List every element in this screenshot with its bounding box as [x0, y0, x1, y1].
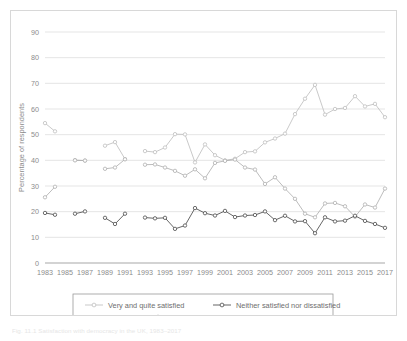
data-point: [333, 220, 336, 223]
y-tick-label: 30: [31, 182, 39, 191]
data-point: [193, 161, 196, 164]
data-point: [193, 206, 196, 209]
y-tick-label: 50: [31, 130, 39, 139]
data-point: [363, 203, 366, 206]
x-tick-label: 1999: [197, 268, 213, 277]
data-point: [363, 105, 366, 108]
data-point: [243, 166, 246, 169]
data-point: [253, 213, 256, 216]
data-point: [383, 187, 386, 190]
data-point: [173, 227, 176, 230]
data-point: [113, 166, 116, 169]
data-point: [183, 174, 186, 177]
data-point: [83, 210, 86, 213]
data-point: [163, 166, 166, 169]
data-point: [323, 113, 326, 116]
x-tick-label: 2003: [237, 268, 253, 277]
data-point: [153, 163, 156, 166]
satisfaction-line-chart: 0102030405060708090Percentage of respond…: [11, 11, 396, 315]
y-tick-label: 10: [31, 233, 39, 242]
data-point: [203, 143, 206, 146]
data-point: [313, 216, 316, 219]
data-point: [323, 216, 326, 219]
series-line: [145, 160, 385, 218]
data-point: [263, 210, 266, 213]
data-point: [193, 168, 196, 171]
data-point: [203, 177, 206, 180]
data-point: [223, 209, 226, 212]
x-tick-label: 1991: [117, 268, 133, 277]
data-point: [313, 232, 316, 235]
data-point: [43, 211, 46, 214]
data-point: [103, 216, 106, 219]
data-point: [53, 185, 56, 188]
legend-swatch-marker: [92, 303, 96, 307]
data-point: [373, 206, 376, 209]
data-point: [293, 112, 296, 115]
data-point: [53, 130, 56, 133]
data-point: [283, 214, 286, 217]
data-point: [293, 197, 296, 200]
data-point: [253, 150, 256, 153]
x-tick-labels: 1983198519871989199119931995199719992001…: [37, 268, 393, 277]
data-point: [283, 132, 286, 135]
x-tick-label: 1983: [37, 268, 53, 277]
data-point: [303, 212, 306, 215]
data-point: [263, 182, 266, 185]
y-tick-label: 90: [31, 28, 39, 37]
data-point: [343, 219, 346, 222]
data-point: [383, 226, 386, 229]
data-point: [43, 121, 46, 124]
data-point: [263, 141, 266, 144]
legend-label: Neither satisfied nor dissatisfied: [236, 301, 340, 310]
series-0: [43, 83, 386, 164]
y-tick-label: 80: [31, 53, 39, 62]
data-point: [313, 83, 316, 86]
x-tick-label: 2017: [377, 268, 393, 277]
y-tick-label: 20: [31, 207, 39, 216]
y-tick-label: 60: [31, 105, 39, 114]
data-point: [183, 224, 186, 227]
data-point: [83, 159, 86, 162]
data-point: [113, 222, 116, 225]
data-point: [363, 219, 366, 222]
data-point: [73, 212, 76, 215]
y-tick-label: 40: [31, 156, 39, 165]
data-point: [303, 97, 306, 100]
data-point: [383, 116, 386, 119]
x-tick-label: 1993: [137, 268, 153, 277]
data-point: [243, 150, 246, 153]
data-point: [143, 216, 146, 219]
legend: Very and quite satisfiedNeither satisfie…: [73, 294, 340, 315]
x-tick-label: 2015: [357, 268, 373, 277]
data-point: [103, 144, 106, 147]
x-tick-label: 2013: [337, 268, 353, 277]
x-tick-label: 2001: [217, 268, 233, 277]
data-point: [253, 168, 256, 171]
data-point: [153, 150, 156, 153]
data-point: [163, 146, 166, 149]
data-point: [143, 163, 146, 166]
x-tick-label: 1985: [57, 268, 73, 277]
series-1: [43, 206, 386, 235]
data-point: [183, 133, 186, 136]
figure-panel: 0102030405060708090Percentage of respond…: [10, 10, 397, 316]
data-point: [373, 102, 376, 105]
series-line: [105, 142, 125, 159]
series-line: [45, 187, 55, 198]
data-point: [103, 167, 106, 170]
data-point: [53, 213, 56, 216]
data-point: [333, 201, 336, 204]
data-point: [123, 158, 126, 161]
legend-swatch-marker: [220, 303, 224, 307]
y-tick-label: 0: [35, 259, 39, 268]
data-point: [43, 196, 46, 199]
y-axis-title: Percentage of respondents: [17, 103, 26, 192]
series-line: [145, 85, 385, 163]
data-point: [353, 94, 356, 97]
data-point: [273, 218, 276, 221]
data-point: [233, 215, 236, 218]
x-tick-label: 2009: [297, 268, 313, 277]
data-point: [353, 214, 356, 217]
data-point: [213, 214, 216, 217]
